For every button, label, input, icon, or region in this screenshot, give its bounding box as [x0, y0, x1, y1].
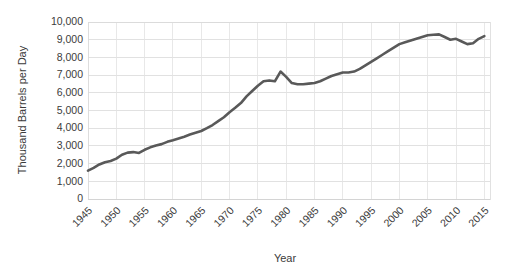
horizontal-gridlines: [88, 22, 490, 199]
y-axis-tick-labels: 01,0002,0003,0004,0005,0006,0007,0008,00…: [51, 15, 83, 204]
x-axis-tick-label: 1975: [239, 204, 264, 229]
x-axis-tick-label: 2015: [466, 204, 491, 229]
x-axis-tick-label: 1995: [353, 204, 378, 229]
y-axis-tick-label: 4,000: [57, 121, 83, 133]
y-axis-tick-label: 5,000: [57, 104, 83, 116]
y-axis-tick-label: 6,000: [57, 86, 83, 98]
x-axis-tick-label: 2005: [409, 204, 434, 229]
x-axis-tick-label: 1950: [98, 204, 123, 229]
x-axis-tick-label: 2010: [437, 204, 462, 229]
y-axis-tick-label: 3,000: [57, 139, 83, 151]
y-axis-tick-label: 8,000: [57, 51, 83, 63]
x-axis-tick-label: 1960: [154, 204, 179, 229]
x-axis-tick-label: 1970: [211, 204, 236, 229]
x-axis-tick-label: 1965: [183, 204, 208, 229]
x-axis-tick-label: 1990: [324, 204, 349, 229]
y-axis-tick-label: 10,000: [51, 15, 83, 27]
x-axis-title: Year: [274, 252, 297, 264]
y-axis-tick-label: 0: [77, 192, 83, 204]
x-axis-tick-label: 2000: [381, 204, 406, 229]
petroleum-consumption-chart: 01,0002,0003,0004,0005,0006,0007,0008,00…: [0, 0, 507, 279]
x-axis-tick-labels: 1945195019551960196519701975198019851990…: [69, 204, 490, 229]
y-axis-title: Thousand Barrels per Day: [16, 45, 28, 174]
y-axis-tick-label: 9,000: [57, 33, 83, 45]
x-axis-tick-label: 1980: [268, 204, 293, 229]
y-axis-tick-label: 2,000: [57, 157, 83, 169]
chart-canvas: 01,0002,0003,0004,0005,0006,0007,0008,00…: [0, 0, 507, 279]
x-axis-tick-label: 1985: [296, 204, 321, 229]
y-axis-tick-label: 1,000: [57, 175, 83, 187]
y-axis-tick-label: 7,000: [57, 68, 83, 80]
x-axis-tick-label: 1945: [69, 204, 94, 229]
x-axis-tick-label: 1955: [126, 204, 151, 229]
